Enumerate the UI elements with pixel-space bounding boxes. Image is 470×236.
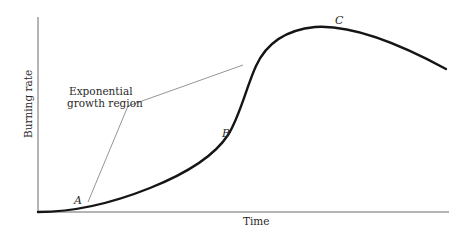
point-c-label: C — [335, 14, 344, 27]
burning-rate-diagram: Exponential growth region A B C Time Bur… — [0, 0, 470, 236]
y-axis-label: Burning rate — [22, 70, 34, 138]
burning-rate-curve — [38, 27, 446, 212]
region-label-line2: growth region — [67, 97, 143, 109]
region-label-line1: Exponential — [69, 85, 133, 97]
x-axis-label: Time — [243, 215, 270, 227]
point-b-label: B — [221, 127, 230, 140]
point-a-label: A — [73, 194, 82, 207]
